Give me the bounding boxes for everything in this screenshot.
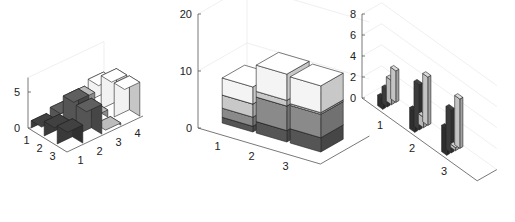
- z-tick-label: 0: [186, 122, 192, 134]
- col-tick-label: 3: [115, 136, 121, 148]
- chart-detached: 051231234: [14, 42, 143, 166]
- bar-front: [455, 95, 460, 148]
- row-tick-label: 2: [36, 142, 42, 154]
- bar-front: [391, 67, 396, 102]
- category-tick-label: 2: [409, 142, 415, 154]
- z-tick-label: 8: [350, 8, 356, 20]
- row-tick-label: 3: [49, 150, 55, 162]
- category-tick-label: 2: [248, 150, 254, 162]
- z-tick-label: 6: [350, 29, 356, 41]
- category-tick-label: 1: [214, 140, 220, 152]
- bar: [455, 94, 463, 149]
- grid-line: [362, 3, 497, 86]
- category-tick-label: 1: [377, 119, 383, 131]
- z-tick-label: 10: [180, 65, 192, 77]
- z-tick-label: 0: [14, 122, 20, 134]
- col-tick-label: 1: [77, 154, 83, 166]
- bar: [423, 72, 431, 126]
- row-tick-label: 1: [23, 134, 29, 146]
- chart-stacked: 01020123: [180, 0, 370, 172]
- z-tick-label: 20: [180, 8, 192, 20]
- grid-line: [198, 0, 369, 22]
- z-tick-label: 2: [350, 71, 356, 83]
- category-tick-label: 3: [282, 160, 288, 172]
- bar-side: [396, 69, 399, 102]
- figure: 051231234 01020123 02468123: [0, 0, 515, 222]
- bar-side: [428, 75, 431, 125]
- bar: [391, 65, 399, 102]
- z-tick-label: 4: [350, 50, 356, 62]
- bar-side: [460, 97, 463, 148]
- category-tick-label: 3: [441, 165, 447, 177]
- chart-grouped: 02468123: [350, 3, 497, 181]
- z-tick-label: 0: [350, 92, 356, 104]
- bar-front: [423, 73, 428, 125]
- z-tick-label: 5: [14, 86, 20, 98]
- bar: [114, 76, 140, 117]
- col-tick-label: 2: [96, 145, 102, 157]
- col-tick-label: 4: [134, 127, 140, 139]
